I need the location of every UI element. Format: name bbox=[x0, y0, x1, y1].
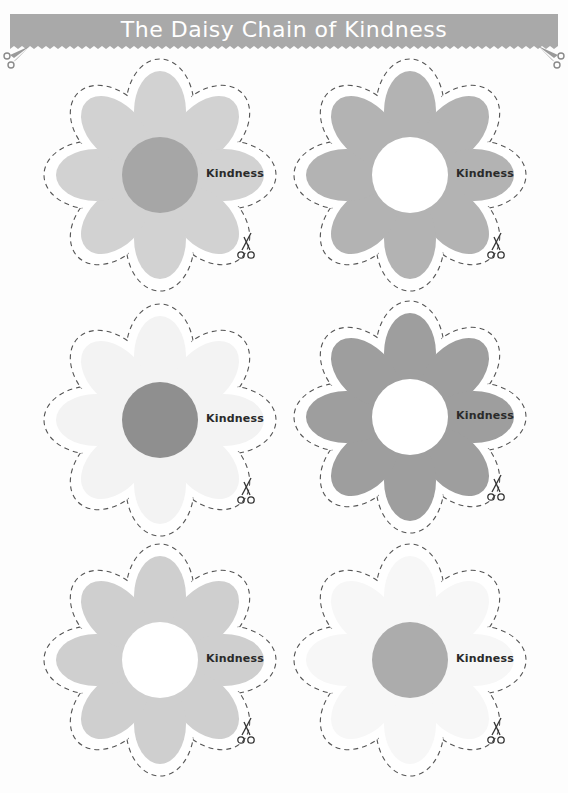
kindness-label: Kindness bbox=[206, 412, 264, 425]
scissors-icon bbox=[236, 476, 256, 506]
daisy-cutout-5: Kindness bbox=[40, 540, 280, 780]
daisy-cutout-3: Kindness bbox=[40, 300, 280, 540]
flower-center bbox=[372, 137, 448, 213]
flower-center bbox=[122, 137, 198, 213]
daisy-cutout-2: Kindness bbox=[290, 55, 530, 295]
daisy-cutout-6: Kindness bbox=[290, 540, 530, 780]
kindness-label: Kindness bbox=[456, 167, 514, 180]
scissors-icon bbox=[2, 44, 32, 70]
scissors-icon bbox=[536, 44, 566, 70]
kindness-label: Kindness bbox=[206, 167, 264, 180]
flower-center bbox=[372, 379, 448, 455]
kindness-label: Kindness bbox=[456, 652, 514, 665]
scissors-icon bbox=[486, 716, 506, 746]
scissors-icon bbox=[236, 231, 256, 261]
kindness-label: Kindness bbox=[456, 409, 514, 422]
flower-center bbox=[122, 382, 198, 458]
flower-center bbox=[372, 622, 448, 698]
scissors-icon bbox=[486, 231, 506, 261]
daisy-cutout-4: Kindness bbox=[290, 297, 530, 537]
scissors-icon bbox=[486, 473, 506, 503]
kindness-label: Kindness bbox=[206, 652, 264, 665]
page-title: The Daisy Chain of Kindness bbox=[10, 14, 558, 46]
flower-center bbox=[122, 622, 198, 698]
daisy-cutout-1: Kindness bbox=[40, 55, 280, 295]
scissors-icon bbox=[236, 716, 256, 746]
